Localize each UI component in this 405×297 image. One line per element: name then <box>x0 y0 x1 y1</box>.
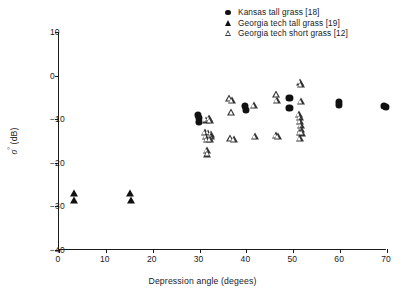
legend-marker-filled-triangle-icon <box>225 20 238 26</box>
data-point <box>127 197 135 204</box>
data-point <box>250 102 258 109</box>
data-point <box>70 189 78 196</box>
data-point <box>251 132 259 139</box>
data-point <box>206 117 214 124</box>
open-triangle-marker-icon <box>203 150 211 157</box>
open-triangle-marker-icon <box>228 97 236 104</box>
data-point <box>286 104 293 111</box>
x-axis-tick-label: 40 <box>241 254 251 264</box>
degree-symbol: ° <box>7 147 14 150</box>
legend-marker-open-triangle-icon <box>225 30 238 36</box>
legend-item: Georgia tech short grass [12] <box>225 28 348 39</box>
data-point <box>296 134 304 141</box>
data-point <box>273 97 281 104</box>
chart-legend: Kansas tall grass [18]Georgia tech tall … <box>225 7 348 39</box>
data-point <box>195 118 202 125</box>
x-axis-tick-label: 30 <box>194 254 204 264</box>
filled-circle-marker-icon <box>286 104 293 111</box>
x-axis-tick <box>200 249 201 253</box>
filled-circle-marker-icon <box>382 103 389 110</box>
x-axis-title: Depression angle (degees) <box>0 276 405 286</box>
x-axis-tick <box>106 249 107 253</box>
x-axis-tick-label: 20 <box>147 254 157 264</box>
data-point <box>126 189 134 196</box>
legend-item-label: Georgia tech tall grass [19] <box>238 18 340 29</box>
x-axis-tick-label: 60 <box>334 254 344 264</box>
y-axis-title: σ° (dB) <box>7 127 19 154</box>
data-point <box>297 98 305 105</box>
open-triangle-marker-icon <box>230 136 238 143</box>
data-point <box>227 108 235 115</box>
x-axis-tick <box>340 249 341 253</box>
open-triangle-marker-icon <box>227 108 235 115</box>
open-triangle-marker-icon <box>297 80 305 87</box>
open-triangle-marker-icon <box>206 135 214 142</box>
data-point <box>230 136 238 143</box>
x-axis-tick-label: 50 <box>287 254 297 264</box>
legend-item: Kansas tall grass [18] <box>225 7 348 18</box>
filled-triangle-marker-icon <box>70 197 78 204</box>
filled-triangle-marker-icon <box>127 197 135 204</box>
data-point <box>286 95 293 102</box>
filled-circle-marker-icon <box>195 118 202 125</box>
open-triangle-marker-icon <box>250 102 258 109</box>
open-triangle-marker-icon <box>274 133 282 140</box>
filled-circle-marker-icon <box>243 106 250 113</box>
legend-item: Georgia tech tall grass [19] <box>225 18 348 29</box>
data-point <box>274 133 282 140</box>
x-axis-tick-label: 10 <box>100 254 110 264</box>
sigma-symbol: σ <box>8 150 19 155</box>
plot-area <box>58 32 386 250</box>
x-axis-tick-label: 0 <box>56 254 61 264</box>
legend-item-label: Georgia tech short grass [12] <box>238 28 348 39</box>
open-triangle-marker-icon <box>273 97 281 104</box>
filled-circle-marker-icon <box>336 101 343 108</box>
filled-circle-marker-icon <box>286 95 293 102</box>
data-point <box>336 101 343 108</box>
filled-triangle-marker-icon <box>70 189 78 196</box>
open-triangle-marker-icon <box>297 98 305 105</box>
data-point <box>228 97 236 104</box>
legend-item-label: Kansas tall grass [18] <box>238 7 320 18</box>
x-axis-tick <box>246 249 247 253</box>
data-point <box>70 197 78 204</box>
data-point <box>297 80 305 87</box>
x-axis-tick <box>153 249 154 253</box>
x-axis-tick <box>387 249 388 253</box>
y-axis-tick <box>55 76 59 77</box>
open-triangle-marker-icon <box>296 134 304 141</box>
legend-marker-filled-circle-icon <box>225 10 238 16</box>
open-triangle-marker-icon <box>206 117 214 124</box>
data-point <box>206 135 214 142</box>
scatter-chart-figure: Kansas tall grass [18]Georgia tech tall … <box>0 0 405 297</box>
data-point <box>382 103 389 110</box>
x-axis-tick-label: 70 <box>381 254 391 264</box>
open-triangle-marker-icon <box>251 132 259 139</box>
x-axis-tick <box>293 249 294 253</box>
data-point <box>243 106 250 113</box>
y-axis-units: (dB) <box>9 127 19 144</box>
data-point <box>203 150 211 157</box>
filled-triangle-marker-icon <box>126 189 134 196</box>
